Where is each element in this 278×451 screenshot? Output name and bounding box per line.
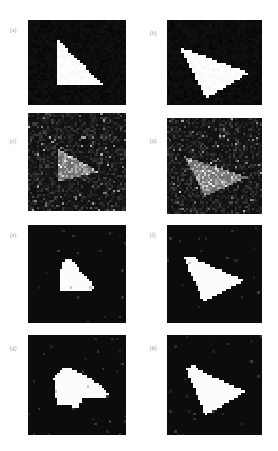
panel-image-e	[28, 225, 126, 323]
panel-label-b: (b)	[150, 30, 157, 36]
panel-label-g: (g)	[10, 345, 17, 351]
panel-label-c: (c)	[10, 138, 16, 144]
figure-panel-grid: (a)(b)(c)(d)(e)(f)(g)(h)	[0, 0, 278, 451]
panel-label-f: (f)	[150, 232, 156, 238]
panel-image-c	[28, 113, 126, 211]
panel-label-h: (h)	[150, 345, 157, 351]
panel-image-f	[167, 225, 262, 323]
panel-image-a	[28, 20, 126, 105]
panel-image-h	[167, 335, 262, 435]
panel-label-d: (d)	[150, 138, 157, 144]
panel-image-g	[28, 335, 126, 435]
panel-label-e: (e)	[10, 232, 16, 238]
panel-image-b	[167, 20, 262, 105]
panel-label-a: (a)	[10, 27, 16, 33]
panel-image-d	[167, 118, 262, 214]
